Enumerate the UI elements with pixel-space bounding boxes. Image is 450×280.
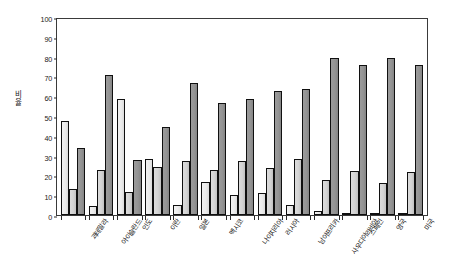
bar <box>350 171 358 215</box>
bar-group <box>230 19 255 215</box>
bar <box>201 182 209 215</box>
bar <box>330 58 338 215</box>
x-axis-category-label: 아이슬란드 <box>121 218 143 246</box>
bar <box>97 170 105 215</box>
bar <box>407 172 415 215</box>
bar <box>294 159 302 215</box>
bar-group <box>61 19 86 215</box>
bar <box>342 213 350 215</box>
y-axis-label: 비 율 <box>12 91 24 106</box>
bar <box>173 205 181 215</box>
y-axis-label-char-2: 율 <box>12 99 24 107</box>
bar <box>314 211 322 215</box>
bar <box>238 161 246 215</box>
bar <box>274 91 282 215</box>
bar <box>266 168 274 215</box>
bar <box>61 121 69 215</box>
bar-group <box>342 19 367 215</box>
bar <box>302 89 310 215</box>
bar <box>117 99 125 215</box>
x-axis-category-label: 영국 <box>395 218 407 232</box>
bar <box>359 65 367 215</box>
bar-chart: 비 율 0102030405060708090100 과테말라아이슬란드인도이란… <box>0 0 450 280</box>
x-axis-labels: 과테말라아이슬란드인도이란일본멕시코나이지리아러시아남아프리카사우디아라비아스페… <box>56 218 428 280</box>
bar <box>162 127 170 215</box>
bar-group <box>398 19 423 215</box>
bar <box>153 167 161 215</box>
bar <box>125 192 133 215</box>
x-axis-category-label: 과테말라 <box>90 218 109 241</box>
x-axis-category-label: 멕시코 <box>228 218 244 236</box>
x-axis-category-label: 미국 <box>423 218 435 232</box>
bar <box>210 170 218 215</box>
x-axis-category-label: 일본 <box>198 218 210 232</box>
bar-group <box>370 19 395 215</box>
bar <box>105 75 113 215</box>
bar <box>246 99 254 215</box>
bar <box>230 195 238 215</box>
bar <box>322 180 330 215</box>
bar-group <box>286 19 311 215</box>
bar <box>387 58 395 215</box>
bar <box>133 160 141 215</box>
bar-groups <box>57 19 427 215</box>
bar <box>415 65 423 215</box>
bar <box>218 103 226 215</box>
bar <box>398 213 406 215</box>
bar-group <box>117 19 142 215</box>
plot-area: 0102030405060708090100 <box>56 18 428 216</box>
bar <box>258 193 266 215</box>
bar-group <box>258 19 283 215</box>
bar <box>145 159 153 215</box>
bar-group <box>173 19 198 215</box>
x-axis-category-label: 이란 <box>169 218 181 232</box>
bar <box>77 148 85 215</box>
x-axis-category-label: 남아프리카 <box>318 218 340 246</box>
bar-group <box>201 19 226 215</box>
bar <box>286 205 294 215</box>
x-axis-category-label: 인도 <box>141 218 153 232</box>
bar <box>190 83 198 215</box>
x-axis-category-label: 러시아 <box>284 218 300 236</box>
bar-group <box>314 19 339 215</box>
bar <box>182 161 190 215</box>
bar-group <box>89 19 114 215</box>
bar <box>89 206 97 215</box>
x-axis-category-label: 나이지리아 <box>261 218 283 246</box>
bar <box>370 213 378 215</box>
bar <box>69 189 77 215</box>
bar-group <box>145 19 170 215</box>
bar <box>379 183 387 215</box>
